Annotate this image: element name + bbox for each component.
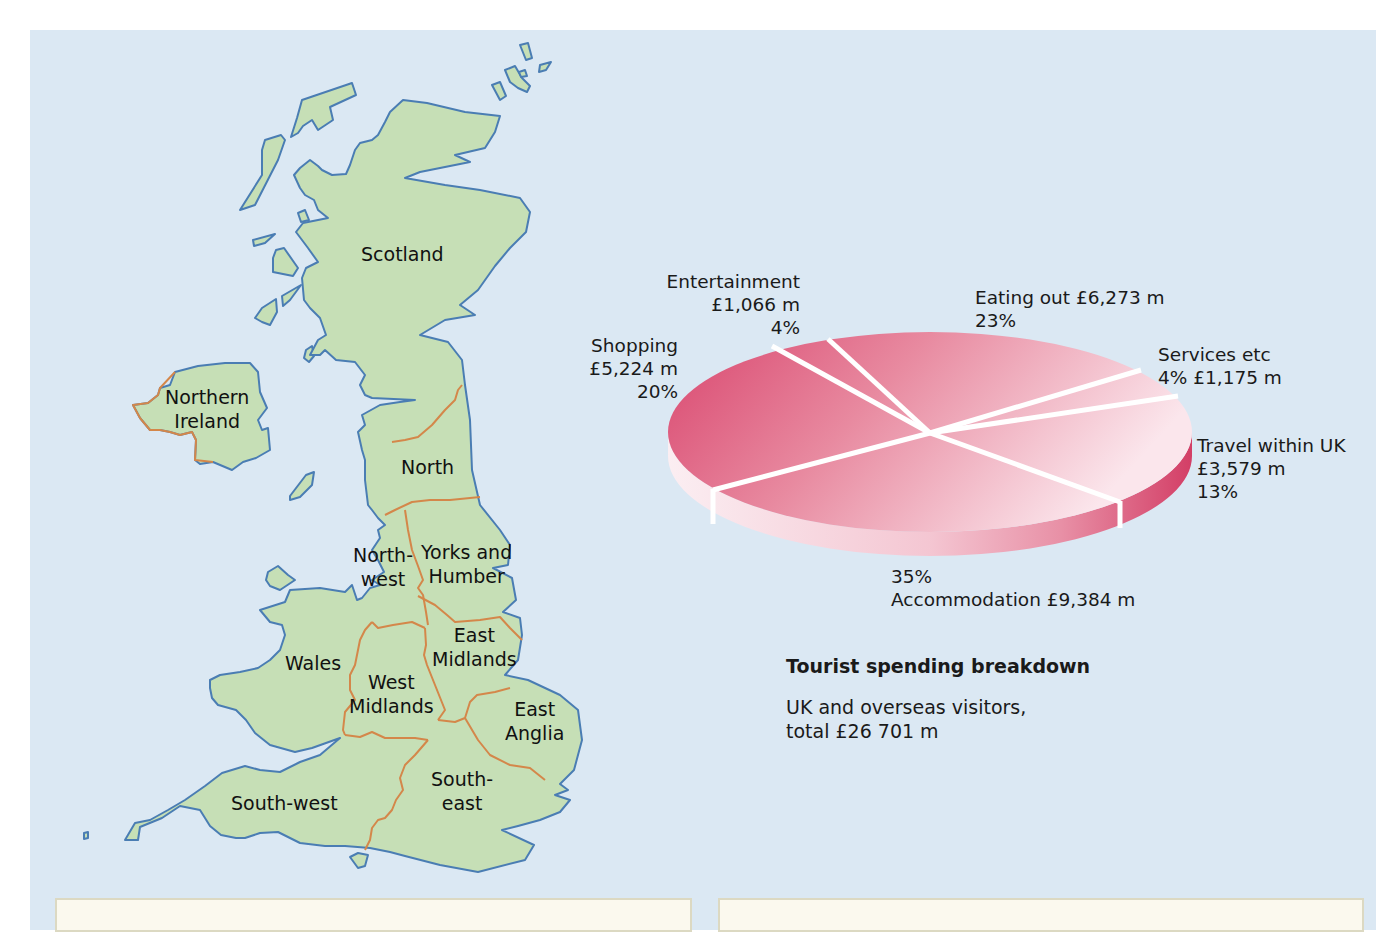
label-pct: 13% — [1197, 480, 1346, 503]
subtitle-line: UK and overseas visitors, — [786, 695, 1026, 719]
label-value: Accommodation £9,384 m — [891, 588, 1135, 611]
bottom-box-right — [718, 898, 1364, 932]
subtitle-line: total £26 701 m — [786, 719, 1026, 743]
label-value: £5,224 m — [560, 357, 678, 380]
label-value: Eating out £6,273 m — [975, 286, 1165, 309]
label-value: £1,066 m — [640, 293, 800, 316]
bottom-box-left — [55, 898, 692, 932]
label-name: Entertainment — [640, 270, 800, 293]
label-name: Shopping — [560, 334, 678, 357]
label-shopping: Shopping £5,224 m 20% — [560, 334, 678, 403]
label-value: £3,579 m — [1197, 457, 1346, 480]
label-value: 4% £1,175 m — [1158, 366, 1282, 389]
label-accommodation: 35% Accommodation £9,384 m — [891, 565, 1135, 611]
label-eating-out: Eating out £6,273 m 23% — [975, 286, 1165, 332]
chart-subtitle: UK and overseas visitors, total £26 701 … — [786, 695, 1026, 743]
label-pct: 35% — [891, 565, 1135, 588]
label-services: Services etc 4% £1,175 m — [1158, 343, 1282, 389]
label-entertainment: Entertainment £1,066 m 4% — [640, 270, 800, 339]
label-pct: 20% — [560, 380, 678, 403]
chart-title: Tourist spending breakdown — [786, 655, 1090, 677]
label-travel: Travel within UK £3,579 m 13% — [1197, 434, 1346, 503]
label-pct: 23% — [975, 309, 1165, 332]
label-name: Travel within UK — [1197, 434, 1346, 457]
label-name: Services etc — [1158, 343, 1282, 366]
